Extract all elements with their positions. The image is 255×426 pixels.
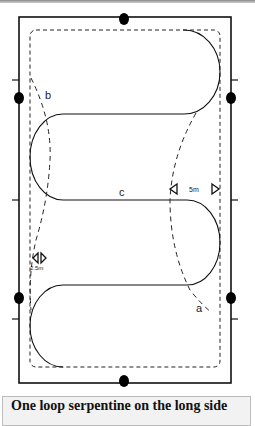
cone-left-icon (170, 184, 177, 194)
cone-gate-2-5m (33, 253, 46, 263)
cone-right-small-icon (41, 253, 46, 263)
label-b: b (45, 89, 51, 101)
dot-right-lower (226, 292, 236, 304)
dot-left-lower (14, 292, 24, 304)
dashed-line-a (170, 113, 211, 312)
serpentine-diagram: 5m 2.5m b c a (0, 0, 255, 395)
dot-bottom (119, 375, 129, 387)
caption-text: One loop serpentine on the long side (11, 398, 227, 414)
label-c: c (119, 186, 125, 198)
cone-left-small-icon (33, 253, 38, 263)
caption-box: One loop serpentine on the long side (2, 396, 251, 426)
cone-right-icon (212, 184, 219, 194)
dashed-track (30, 30, 220, 367)
dot-top (119, 13, 129, 25)
dot-left-upper (14, 92, 24, 104)
serpentine-path (30, 30, 220, 367)
label-5m: 5m (189, 186, 199, 193)
label-2-5m: 2.5m (30, 265, 43, 271)
dot-right-upper (226, 92, 236, 104)
dashed-line-b (30, 78, 50, 310)
label-a: a (196, 302, 203, 314)
